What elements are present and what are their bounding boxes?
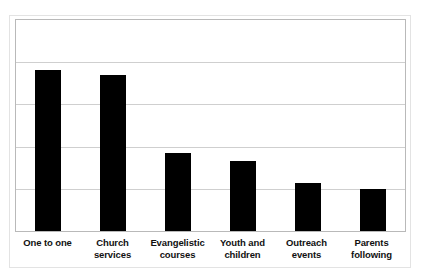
category-label: Outreachevents: [274, 237, 339, 260]
category-label: Youth andchildren: [210, 237, 275, 260]
bars-group: [16, 20, 405, 231]
category-label-line: Parents: [339, 237, 404, 249]
bar: [230, 161, 256, 231]
category-label-line: following: [339, 249, 404, 261]
plot-area: [15, 19, 406, 232]
category-label-line: children: [210, 249, 275, 261]
category-label-line: Youth and: [210, 237, 275, 249]
category-label: Parentsfollowing: [339, 237, 404, 260]
bar: [360, 189, 386, 231]
category-label-line: Evangelistic: [145, 237, 210, 249]
bar-chart-card: One to oneChurchservicesEvangelisticcour…: [9, 15, 411, 268]
category-label-line: Outreach: [274, 237, 339, 249]
bar: [35, 70, 61, 231]
category-label-line: services: [80, 249, 145, 261]
category-label-line: One to one: [15, 237, 80, 249]
category-label: Churchservices: [80, 237, 145, 260]
bar: [165, 153, 191, 231]
category-label-line: courses: [145, 249, 210, 261]
category-label: Evangelisticcourses: [145, 237, 210, 260]
bar: [100, 75, 126, 231]
category-label: One to one: [15, 237, 80, 249]
category-label-line: Church: [80, 237, 145, 249]
category-label-line: events: [274, 249, 339, 261]
category-axis-labels: One to oneChurchservicesEvangelisticcour…: [15, 235, 406, 267]
bar: [295, 183, 321, 231]
